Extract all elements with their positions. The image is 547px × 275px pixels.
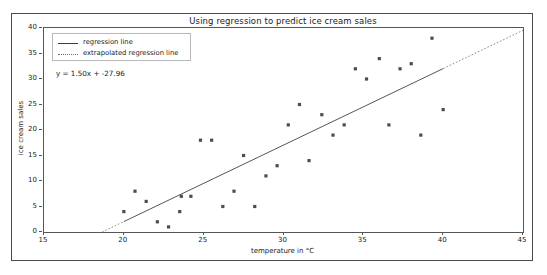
scatter-point <box>331 134 334 137</box>
y-tick-mark <box>39 231 42 232</box>
x-tick-mark <box>203 232 204 235</box>
scatter-point <box>307 159 310 162</box>
scatter-point <box>387 123 390 126</box>
scatter-point <box>320 113 323 116</box>
x-tick-mark <box>43 232 44 235</box>
scatter-point <box>442 108 445 111</box>
extrapolated-regression-line-right <box>443 30 523 68</box>
regression-equation-annotation: y = 1.50x + -27.96 <box>56 69 125 78</box>
chart-figure: Using regression to predict ice cream sa… <box>0 0 547 275</box>
x-tick-mark <box>522 232 523 235</box>
scatter-point <box>354 67 357 70</box>
y-tick-mark <box>39 180 42 181</box>
scatter-point <box>221 205 224 208</box>
scatter-point <box>365 77 368 80</box>
x-tick-label: 40 <box>438 236 447 244</box>
scatter-point <box>398 67 401 70</box>
scatter-point <box>178 210 181 213</box>
x-tick-label: 20 <box>118 236 127 244</box>
legend-item-extrapolated-line: extrapolated regression line <box>57 48 186 59</box>
y-tick-mark <box>39 206 42 207</box>
legend-dotted-line-icon <box>57 50 79 58</box>
x-tick-label: 35 <box>358 236 367 244</box>
scatter-point <box>156 220 159 223</box>
extrapolated-regression-line-left <box>102 222 124 232</box>
y-tick-label: 10 <box>19 176 37 184</box>
scatter-point <box>419 134 422 137</box>
y-tick-mark <box>39 53 42 54</box>
chart-legend: regression line extrapolated regression … <box>52 33 191 61</box>
scatter-point <box>199 139 202 142</box>
scatter-point <box>410 62 413 65</box>
scatter-point <box>145 200 148 203</box>
scatter-point <box>276 164 279 167</box>
legend-solid-line-icon <box>57 39 79 47</box>
scatter-point <box>378 57 381 60</box>
x-tick-label: 25 <box>198 236 207 244</box>
scatter-point <box>180 195 183 198</box>
y-tick-mark <box>39 104 42 105</box>
chart-title: Using regression to predict ice cream sa… <box>43 16 523 26</box>
y-tick-label: 30 <box>19 74 37 82</box>
x-tick-mark <box>442 232 443 235</box>
x-tick-mark <box>283 232 284 235</box>
y-tick-mark <box>39 27 42 28</box>
y-tick-label: 35 <box>19 49 37 57</box>
scatter-point <box>343 123 346 126</box>
scatter-point <box>253 205 256 208</box>
scatter-point <box>430 37 433 40</box>
scatter-point <box>167 225 170 228</box>
y-tick-mark <box>39 155 42 156</box>
y-tick-label: 0 <box>19 227 37 235</box>
x-tick-label: 30 <box>278 236 287 244</box>
y-tick-mark <box>39 129 42 130</box>
y-tick-mark <box>39 78 42 79</box>
regression-line <box>124 69 443 222</box>
scatter-point <box>232 190 235 193</box>
x-tick-mark <box>362 232 363 235</box>
x-axis-label: temperature in °C <box>43 247 522 255</box>
scatter-point <box>189 195 192 198</box>
scatter-point <box>210 139 213 142</box>
scatter-point <box>264 174 267 177</box>
y-tick-label: 5 <box>19 202 37 210</box>
scatter-point <box>287 123 290 126</box>
x-tick-mark <box>123 232 124 235</box>
legend-item-regression-line: regression line <box>57 37 186 48</box>
legend-label-regression-line: regression line <box>83 38 133 47</box>
scatter-point <box>122 210 125 213</box>
x-tick-label: 45 <box>518 236 527 244</box>
x-tick-label: 15 <box>39 236 48 244</box>
scatter-point <box>242 154 245 157</box>
scatter-point <box>133 190 136 193</box>
scatter-point <box>298 103 301 106</box>
y-axis-label: ice cream sales <box>17 88 25 168</box>
y-tick-label: 40 <box>19 23 37 31</box>
legend-label-extrapolated-line: extrapolated regression line <box>83 49 178 58</box>
